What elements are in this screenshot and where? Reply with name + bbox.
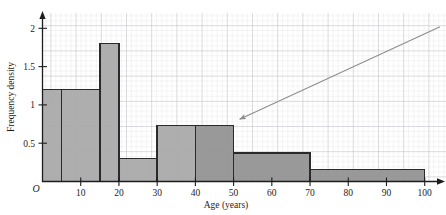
- x-tick-label: 60: [267, 188, 277, 198]
- x-tick-label: 10: [76, 188, 86, 198]
- origin-label: O: [32, 183, 39, 194]
- histogram-bar: [100, 44, 119, 182]
- histogram-figure: 0.511.52 102030405060708090100 O Age (ye…: [0, 0, 446, 215]
- frequency-density-histogram: 0.511.52 102030405060708090100 O Age (ye…: [0, 0, 446, 215]
- histogram-bar: [62, 90, 100, 182]
- y-tick-label: 2: [30, 24, 35, 34]
- x-axis-title: Age (years): [204, 200, 249, 211]
- x-tick-label: 30: [152, 188, 162, 198]
- x-tick-label: 40: [191, 188, 201, 198]
- x-tick-label: 80: [344, 188, 354, 198]
- x-tick-label: 50: [229, 188, 239, 198]
- x-tick-label: 20: [114, 188, 124, 198]
- histogram-bar: [119, 159, 157, 182]
- histogram-bar: [310, 169, 425, 181]
- histogram-bar: [195, 126, 233, 182]
- y-tick-label: 0.5: [23, 139, 35, 149]
- x-tick-label: 90: [382, 188, 392, 198]
- histogram-bar: [157, 126, 195, 182]
- histogram-bar: [43, 90, 62, 182]
- y-axis-title: Frequency density: [6, 62, 16, 132]
- histogram-bar: [234, 153, 310, 181]
- x-tick-label: 100: [418, 188, 433, 198]
- y-tick-label: 1: [30, 100, 35, 110]
- x-tick-label: 70: [305, 188, 315, 198]
- y-tick-label: 1.5: [23, 62, 35, 72]
